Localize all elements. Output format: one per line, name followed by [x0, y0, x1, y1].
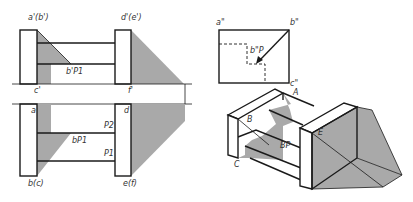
label-top-p2: P2	[104, 122, 114, 130]
label-top-bc: b(c)	[28, 180, 44, 188]
label-top-d: d	[124, 107, 129, 115]
label-front-c: c'	[34, 87, 41, 95]
axo-right-plate-side	[300, 128, 312, 189]
label-axo-A: A	[293, 89, 298, 97]
axonometric-view	[228, 89, 402, 189]
label-front-bp1: b'P1	[66, 68, 83, 76]
label-axo-Bp: BP	[280, 142, 290, 150]
label-side-c: c"	[290, 80, 298, 88]
top-shadow-right	[131, 104, 185, 176]
label-front-de: d'(e')	[121, 14, 142, 22]
label-axo-E: E	[318, 129, 323, 137]
axo-left-plate-side	[228, 115, 238, 158]
label-top-ef: e(f)	[123, 180, 137, 188]
label-front-f: f'	[128, 87, 133, 95]
label-side-a: a"	[216, 19, 225, 27]
label-top-a: a	[31, 107, 36, 115]
label-top-bp1: bP1	[72, 137, 87, 145]
label-side-b: b"	[290, 19, 299, 27]
front-view	[20, 30, 184, 84]
label-axo-C: C	[234, 161, 240, 169]
top-view	[20, 104, 185, 176]
front-left-plate	[20, 30, 37, 84]
front-right-plate	[115, 30, 131, 84]
front-shadow-right	[131, 30, 184, 84]
side-rect	[219, 30, 289, 83]
label-axo-B: B	[247, 116, 253, 124]
label-front-ab: a'(b')	[28, 14, 49, 22]
top-shadow-left	[37, 104, 71, 176]
label-side-bp: b"P	[250, 47, 264, 55]
projection-diagram	[0, 0, 413, 202]
label-top-p1: P1	[104, 150, 114, 158]
side-view	[219, 30, 289, 83]
